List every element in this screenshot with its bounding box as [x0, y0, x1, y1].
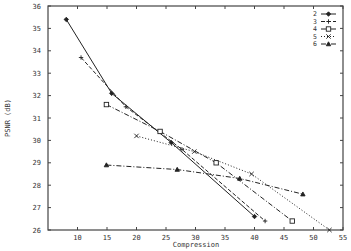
y-tick-label: 32 — [33, 92, 41, 100]
plot-border — [48, 6, 343, 230]
series-4 — [104, 102, 294, 223]
x-tick-label: 20 — [132, 234, 140, 242]
y-tick-label: 27 — [33, 204, 41, 212]
y-axis-label: PSNR (dB) — [4, 99, 12, 137]
y-tick-label: 30 — [33, 137, 41, 145]
series-5 — [134, 134, 331, 232]
psnr-compression-chart: 10152025303540455055 2627282930313233343… — [0, 0, 351, 251]
y-axis-ticks: 2627282930313233343536 — [33, 3, 343, 235]
x-tick-label: 10 — [73, 234, 81, 242]
x-tick-label: 45 — [280, 234, 288, 242]
x-tick-label: 25 — [162, 234, 170, 242]
y-tick-label: 36 — [33, 3, 41, 11]
legend: 23456 — [313, 10, 336, 48]
x-tick-label: 15 — [103, 234, 111, 242]
y-tick-label: 31 — [33, 115, 41, 123]
x-tick-label: 40 — [250, 234, 258, 242]
x-tick-label: 50 — [309, 234, 317, 242]
y-tick-label: 33 — [33, 70, 41, 78]
series-3 — [79, 55, 267, 223]
x-axis-label: Compression — [173, 241, 219, 249]
plot-frame — [48, 6, 343, 230]
series-layer — [64, 17, 332, 232]
y-tick-label: 28 — [33, 182, 41, 190]
y-tick-label: 35 — [33, 25, 41, 33]
y-tick-label: 26 — [33, 227, 41, 235]
series-2 — [64, 17, 257, 219]
y-tick-label: 34 — [33, 47, 41, 55]
x-tick-label: 35 — [221, 234, 229, 242]
y-tick-label: 29 — [33, 159, 41, 167]
x-axis-ticks: 10152025303540455055 — [73, 6, 347, 242]
x-tick-label: 55 — [339, 234, 347, 242]
legend-item-6: 6 — [313, 40, 336, 48]
legend-label: 6 — [313, 40, 317, 48]
